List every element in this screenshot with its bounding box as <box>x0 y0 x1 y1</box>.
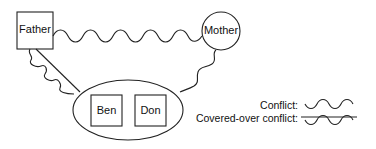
father-label: Father <box>18 24 52 35</box>
conflict-line-father-mother <box>53 30 202 42</box>
ben-label: Ben <box>91 105 122 116</box>
legend-conflict-label: Conflict: <box>260 100 298 111</box>
conflict-line-mother-children <box>180 50 216 92</box>
mother-label: Mother <box>202 25 240 36</box>
covered-conflict-wavy-line <box>29 49 74 94</box>
legend-conflict-symbol <box>305 100 353 109</box>
covered-conflict-straight-line <box>36 49 80 92</box>
legend-covered-label: Covered-over conflict: <box>196 113 298 124</box>
family-diagram <box>0 0 376 149</box>
don-label: Don <box>135 105 166 116</box>
